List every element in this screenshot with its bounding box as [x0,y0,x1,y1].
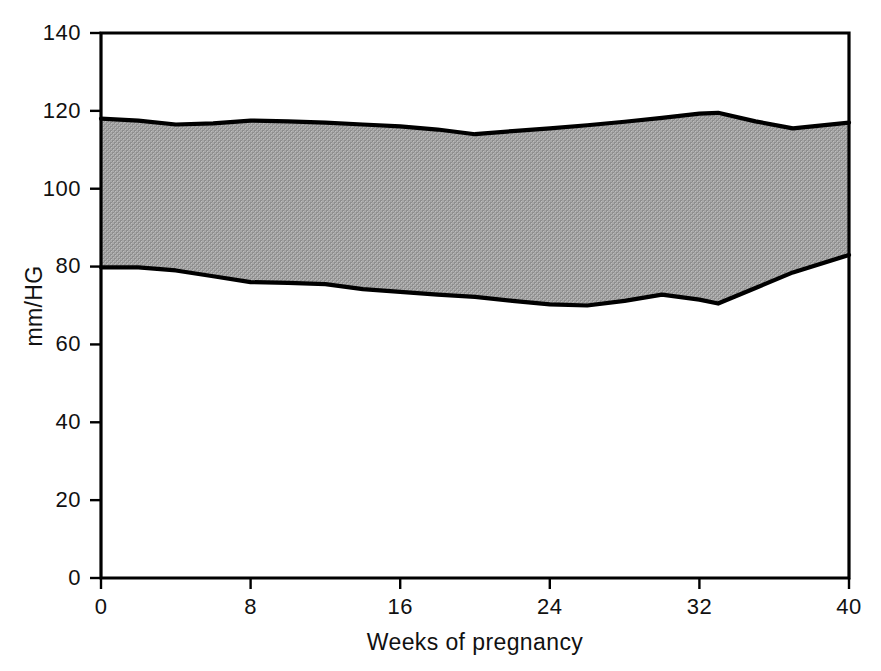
y-axis-title: mm/HG [21,265,47,346]
y-tick-label: 0 [68,565,81,590]
x-tick-label: 8 [244,594,257,619]
y-tick-label: 20 [56,487,81,512]
x-tick-label: 24 [537,594,562,619]
data-band [101,113,849,306]
plot-area [101,33,849,578]
x-tick-label: 40 [836,594,861,619]
chart-figure: 020406080100120140 0816243240 mm/HG Week… [0,0,881,671]
y-tick-label: 40 [56,409,81,434]
x-tick-label: 16 [387,594,412,619]
x-axis-title: Weeks of pregnancy [367,629,584,655]
x-tick-label: 32 [687,594,712,619]
y-tick-label: 120 [43,98,81,123]
blood-pressure-band-chart: 020406080100120140 0816243240 mm/HG Week… [0,0,881,671]
y-tick-label: 140 [43,20,81,45]
y-tick-label: 100 [43,176,81,201]
y-tick-label: 60 [56,331,81,356]
x-tick-label: 0 [95,594,108,619]
y-tick-label: 80 [56,253,81,278]
